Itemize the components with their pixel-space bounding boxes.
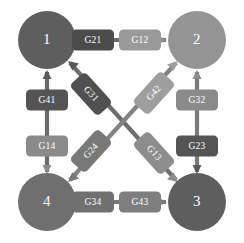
edge-label-G23-text: G23 xyxy=(189,141,206,151)
node-1[interactable]: 1 xyxy=(18,11,76,69)
edge-label-G21-text: G21 xyxy=(85,35,102,45)
edge-label-G14[interactable]: G14 xyxy=(26,136,68,157)
node-2[interactable]: 2 xyxy=(168,11,226,69)
edge-label-G32[interactable]: G32 xyxy=(176,90,218,111)
graph-diagram: 1 2 3 4 G21 G12 xyxy=(0,0,244,243)
node-1-label: 1 xyxy=(43,31,51,47)
edge-label-G23[interactable]: G23 xyxy=(176,136,218,157)
node-4[interactable]: 4 xyxy=(18,173,76,231)
graph-canvas: 1 2 3 4 G21 G12 xyxy=(0,0,244,243)
arrowhead-down-to-node4 xyxy=(43,165,52,174)
edge-label-G43[interactable]: G43 xyxy=(119,192,161,213)
edge-label-G21[interactable]: G21 xyxy=(72,30,114,51)
edge-label-G12[interactable]: G12 xyxy=(119,30,161,51)
edge-label-G24[interactable]: G24 xyxy=(69,128,113,173)
edge-label-G34[interactable]: G34 xyxy=(72,192,114,213)
edge-label-G31[interactable]: G31 xyxy=(69,71,113,116)
edge-line-left xyxy=(43,70,52,174)
edge-line-right xyxy=(193,70,202,174)
edge-label-G43-text: G43 xyxy=(132,197,149,207)
edge-label-G41-text: G41 xyxy=(39,95,56,105)
arrowhead-up-to-node1 xyxy=(43,70,52,79)
arrowhead-down-to-node3 xyxy=(193,165,202,174)
node-4-label: 4 xyxy=(43,193,51,209)
node-2-label: 2 xyxy=(193,31,201,47)
arrowhead-up-to-node2 xyxy=(193,70,202,79)
edge-label-G12-text: G12 xyxy=(132,35,149,45)
edge-label-G32-text: G32 xyxy=(189,95,206,105)
node-3-label: 3 xyxy=(193,193,201,209)
edge-label-G41[interactable]: G41 xyxy=(26,90,68,111)
edge-label-G42[interactable]: G42 xyxy=(132,70,176,115)
node-3[interactable]: 3 xyxy=(168,173,226,231)
edge-label-G14-text: G14 xyxy=(39,141,56,151)
edge-label-G34-text: G34 xyxy=(85,197,102,207)
